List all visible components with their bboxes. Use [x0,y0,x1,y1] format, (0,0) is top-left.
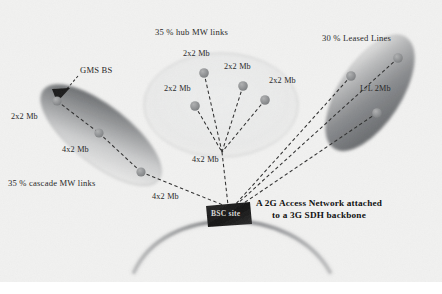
hub-node-label-1: 2x2 Mb [164,84,191,93]
backbone-caption-line-2: to a 3G SDH backbone [256,210,382,222]
hub-trunk-label: 4x2 Mb [192,155,219,164]
hub-node-label-2: 2x2 Mb [183,49,210,58]
bsc-site-label: BSC site [211,209,240,218]
hub-node-label-4: 2x2 Mb [269,76,296,85]
cascade-trunk-label: 4x2 Mb [152,192,179,201]
bottom-margin [0,282,442,294]
cascade-link-label-1: 2x2 Mb [11,112,38,121]
backbone-caption: A 2G Access Network attached to a 3G SDH… [256,198,382,221]
gms-bs-label: GMS BS [80,65,113,75]
leased-title: 30 % Leased Lines [322,33,391,43]
cascade-link-label-2: 4x2 Mb [62,145,89,154]
cascade-title: 35 % cascade MW links [8,178,96,188]
leased-link-label: L/L 2Mb [360,84,391,93]
network-diagram: GMS BS 2x2 Mb 4x2 Mb 35 % cascade MW lin… [0,0,442,294]
hub-node-label-3: 2x2 Mb [224,62,251,71]
backbone-caption-line-1: A 2G Access Network attached [256,198,382,210]
hub-title: 35 % hub MW links [155,27,228,37]
